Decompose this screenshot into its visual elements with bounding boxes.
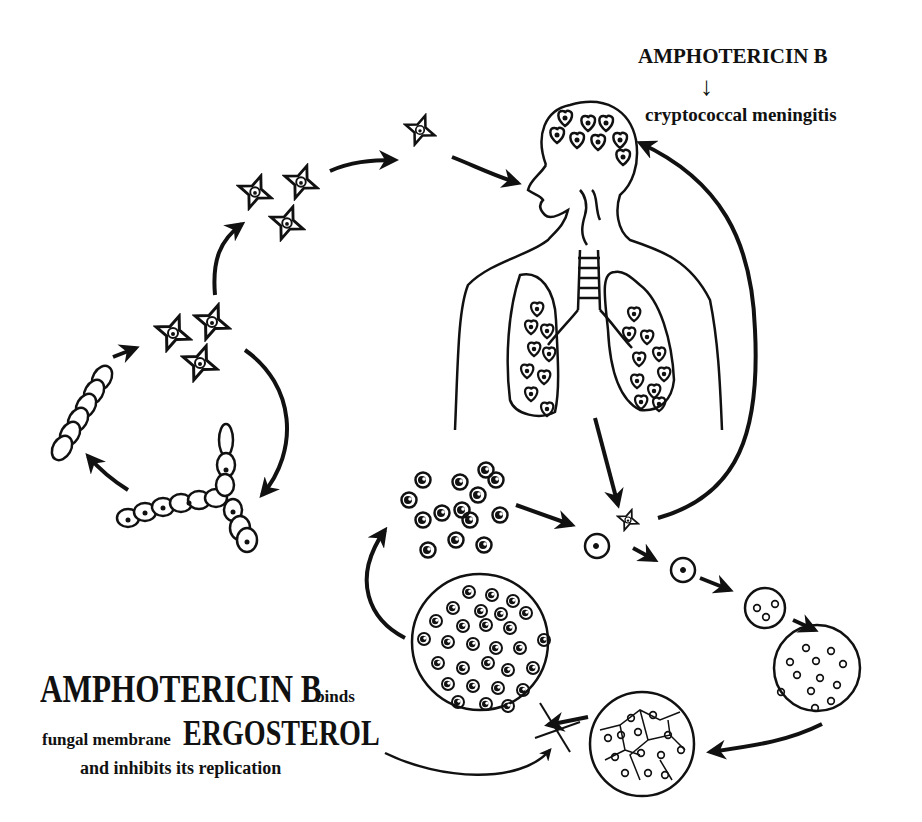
drug-action-line3: and inhibits its replication — [80, 758, 281, 779]
branching-hyphae — [117, 424, 257, 552]
brain-yeast-cells — [550, 111, 630, 165]
inhibition-cross — [535, 703, 588, 752]
small-spore — [614, 506, 642, 534]
spores-cluster-upper — [233, 160, 323, 245]
lifecycle-arrows-left — [88, 157, 518, 495]
yeast-aggregate — [412, 574, 550, 712]
spores-cluster-lower — [150, 299, 235, 386]
tissue-cells — [605, 712, 685, 779]
budding-progression — [516, 505, 860, 711]
return-arrow — [710, 724, 822, 752]
disease-label: cryptococcal meningitis — [645, 104, 837, 126]
yeast-cells-cluster — [402, 463, 508, 558]
drug-action-line2: fungal membrane ERGOSTEROL — [42, 712, 435, 754]
top-drug-label: AMPHOTERICIN B — [638, 44, 828, 69]
down-arrow-icon: ↓ — [700, 74, 713, 100]
lung-yeast-cells — [521, 303, 670, 417]
human-host — [455, 102, 722, 430]
aggregate-release-arrow — [367, 530, 405, 638]
dissemination-arrow — [640, 143, 756, 518]
drug-name-big: AMPHOTERICIN B — [40, 665, 322, 712]
single-spore — [400, 110, 439, 149]
ergosterol-text: ERGOSTEROL — [183, 712, 380, 754]
membrane-text: fungal membrane — [42, 730, 171, 749]
lungs-to-yeast-arrow — [595, 418, 618, 505]
drug-action-line1: AMPHOTERICIN B binds — [40, 665, 355, 712]
hyphae-chain — [48, 362, 117, 464]
tissue-aggregate — [590, 692, 694, 796]
